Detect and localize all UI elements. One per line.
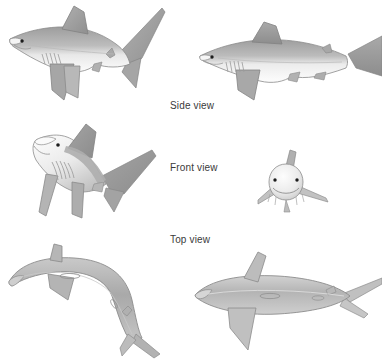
shark-top-straight (192, 250, 382, 356)
caudal-fin (342, 278, 382, 302)
body (9, 258, 142, 340)
body-tail (284, 200, 290, 212)
dorsal-fin (62, 6, 88, 34)
caudal-fin (102, 150, 156, 194)
label-front-view: Front view (170, 162, 218, 174)
eye (210, 55, 213, 58)
illustration-plate: Side view Front view Top view (0, 0, 382, 362)
shark-front-oblique (6, 118, 158, 222)
shark-top-curved (4, 238, 172, 358)
shark-side-oblique (2, 2, 170, 114)
shark-side-lateral (196, 18, 382, 110)
label-side-view: Side view (170, 100, 214, 112)
dorsal-fin (50, 244, 62, 262)
pectoral-fin-far (64, 66, 80, 98)
eye (20, 39, 23, 42)
pectoral-fin-right (72, 182, 84, 218)
eye (56, 143, 60, 147)
dorsal-fin (252, 22, 282, 44)
caudal-fin-upper (132, 334, 160, 358)
pectoral-fin-left (39, 174, 58, 216)
eye-right (295, 178, 298, 181)
caudal-fin (348, 36, 382, 76)
label-top-view: Top view (170, 234, 210, 246)
body (195, 276, 350, 315)
pectoral-fin-left (48, 274, 74, 300)
head (269, 164, 303, 200)
shark-front-head-on (256, 150, 332, 220)
caudal-fin-lower (340, 298, 368, 318)
pectoral-fin (228, 308, 256, 350)
caudal-fin-lower (104, 188, 124, 212)
eye-left (273, 178, 276, 181)
pectoral-fin (236, 70, 260, 100)
